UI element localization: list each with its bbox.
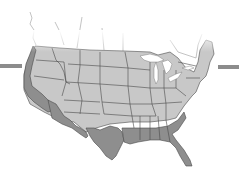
northern-fade	[20, 30, 220, 52]
us-map	[0, 0, 239, 178]
texas	[86, 126, 124, 160]
